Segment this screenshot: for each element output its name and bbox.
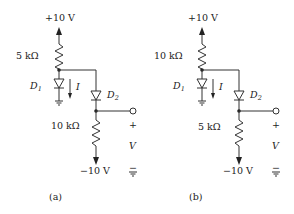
supply-bottom-label: −10 V xyxy=(80,165,110,176)
circuit-b-wiring xyxy=(197,27,280,176)
plus-label: + xyxy=(129,119,137,130)
supply-bottom-label: −10 V xyxy=(223,165,253,176)
circuit-a: +10 V 5 kΩ D1 I D2 10 kΩ + V − −10 V (a) xyxy=(16,12,137,202)
caption-a: (a) xyxy=(49,191,62,202)
minus-label: − xyxy=(129,162,137,173)
current-label: I xyxy=(75,81,80,92)
current-label: I xyxy=(218,81,223,92)
resistor-bottom-label: 5 kΩ xyxy=(198,121,221,132)
circuit-a-wiring xyxy=(54,27,137,176)
caption-b: (b) xyxy=(189,191,203,202)
resistor-top-label: 5 kΩ xyxy=(16,50,39,61)
minus-label: − xyxy=(272,162,280,173)
supply-top-label: +10 V xyxy=(45,12,75,23)
diode-d2-label: D2 xyxy=(106,89,119,102)
diode-d2-label: D2 xyxy=(249,89,262,102)
diode-d1-label: D1 xyxy=(172,80,185,93)
plus-label: + xyxy=(272,119,280,130)
diagram-canvas: +10 V 5 kΩ D1 I D2 10 kΩ + V − −10 V (a)… xyxy=(0,0,294,214)
supply-top-label: +10 V xyxy=(188,12,218,23)
circuit-b: +10 V 10 kΩ D1 I D2 5 kΩ + V − −10 V (b) xyxy=(154,12,280,202)
resistor-bottom-label: 10 kΩ xyxy=(51,120,80,131)
vout-label: V xyxy=(129,140,137,151)
vout-label: V xyxy=(272,140,280,151)
diode-d1-label: D1 xyxy=(29,80,42,93)
resistor-top-label: 10 kΩ xyxy=(154,50,183,61)
